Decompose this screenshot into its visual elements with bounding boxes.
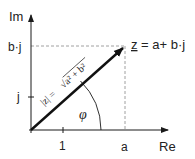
angle-label: φ bbox=[79, 107, 87, 122]
angle-arc bbox=[81, 81, 102, 130]
x-axis-label: Re bbox=[159, 139, 176, 154]
vector-z bbox=[31, 48, 123, 130]
y-axis-label: Im bbox=[9, 9, 23, 24]
complex-plane-diagram: Im Re 1 j a b·j z = a+ b·j |z| = √a² + b… bbox=[0, 0, 195, 159]
point-x-label: a bbox=[121, 140, 128, 154]
point-y-label: b·j bbox=[8, 40, 21, 54]
magnitude-lhs: |z| = bbox=[38, 88, 58, 107]
z-definition: = a+ b·j bbox=[138, 37, 186, 52]
y-tick-label: j bbox=[16, 90, 20, 104]
magnitude-rhs: √a² + b² bbox=[57, 61, 88, 90]
point-z-label: z = a+ b·j bbox=[131, 37, 185, 52]
x-tick-label: 1 bbox=[59, 139, 66, 153]
